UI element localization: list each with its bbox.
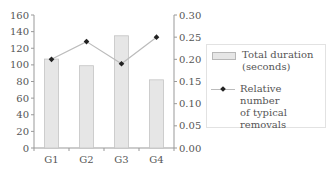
x-tick-label: G1: [44, 154, 58, 165]
legend-label: of typical: [240, 107, 287, 118]
y2-tick-label: 0.20: [179, 54, 201, 65]
y-tick-label: 120: [10, 43, 29, 54]
line-series: [49, 34, 160, 66]
y2-tick-label: 0.00: [179, 143, 201, 154]
y-tick-label: 80: [16, 76, 29, 87]
y2-tick-label: 0.30: [179, 10, 201, 21]
legend: Total duration (seconds) Relative number…: [206, 44, 326, 128]
y-tick-label: 20: [16, 126, 29, 137]
legend-item-total-duration: Total duration (seconds): [207, 49, 320, 73]
legend-label: Total duration: [242, 49, 314, 60]
y-tick-label: 0: [23, 143, 29, 154]
bar: [80, 66, 94, 148]
legend-label: (seconds): [242, 61, 290, 72]
y-tick-label: 60: [16, 93, 29, 104]
bar-swatch-icon: [212, 52, 236, 60]
x-tick-label: G3: [114, 154, 128, 165]
y2-tick-label: 0.25: [179, 32, 201, 43]
x-tick-label: G2: [79, 154, 93, 165]
y2-tick-label: 0.15: [179, 76, 201, 87]
diamond-marker-icon: [211, 83, 235, 95]
x-tick-label: G4: [149, 154, 163, 165]
legend-item-relative-removals: Relative number of typical removals: [207, 83, 318, 131]
y2-tick-label: 0.10: [179, 98, 201, 109]
diamond-marker: [84, 39, 90, 45]
legend-label: removals: [240, 119, 286, 130]
y-tick-label: 140: [10, 26, 29, 37]
bar: [45, 59, 59, 148]
y2-tick-label: 0.05: [179, 120, 201, 131]
axes: 0204060801001201401600.000.050.100.150.2…: [10, 10, 201, 166]
y-tick-label: 40: [16, 109, 29, 120]
bar: [150, 80, 164, 148]
legend-label: Relative number: [240, 83, 281, 106]
y-tick-label: 160: [10, 10, 29, 21]
bar: [115, 36, 129, 148]
y-tick-label: 100: [10, 59, 29, 70]
